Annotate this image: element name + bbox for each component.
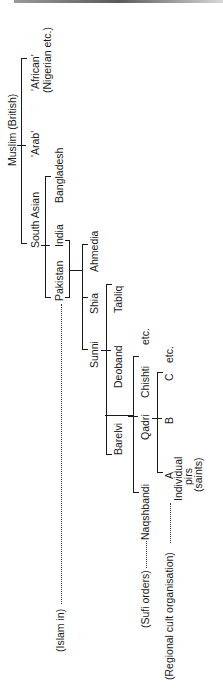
qadri-bracket-line <box>157 372 158 473</box>
node-b: B <box>164 417 175 424</box>
barelvi-bracket-top-cap <box>133 356 139 357</box>
node-deoband: Deoband <box>113 345 124 388</box>
sunni-bracket-line <box>106 284 107 455</box>
south-asian-bracket-line <box>45 176 46 298</box>
root-bracket-tick <box>17 145 26 146</box>
islam-in-dotted-leader <box>61 304 62 604</box>
node-qadri: Qadri <box>140 414 151 440</box>
india-pakistan-bracket-line <box>69 240 70 298</box>
pakistan-bracket-cap <box>65 297 70 298</box>
node-african-sub: (Nigerian etc.) <box>42 27 53 93</box>
south-asian-bracket-tick <box>41 245 50 246</box>
barelvi-bracket-line <box>133 356 134 493</box>
sufi-orders-dotted-leader <box>146 541 147 568</box>
node-barelvi: Barelvi <box>113 423 124 455</box>
node-shia: Shia <box>89 293 100 314</box>
node-african: 'African' <box>30 54 41 91</box>
node-sunni: Sunni <box>89 341 100 368</box>
node-c-etc: etc. <box>164 346 175 363</box>
south-asian-bracket-bottom-cap <box>45 297 51 298</box>
node-india: India <box>54 224 65 247</box>
node-chishti-etc: etc. <box>140 328 151 345</box>
sunni-bracket-top-cap <box>106 284 112 285</box>
muslim-hierarchy-tree-diagram: Muslim (British) 'African' (Nigerian etc… <box>0 0 223 692</box>
sunni-bracket-tick <box>101 350 111 351</box>
india-bracket-cap <box>65 240 70 241</box>
node-muslim-british: Muslim (British) <box>7 94 18 166</box>
node-tabliq: Tabliq <box>113 286 124 313</box>
node-c: C <box>164 373 175 381</box>
root-bracket-top-cap <box>21 58 27 59</box>
regional-cult-dotted-leader <box>170 503 171 543</box>
node-pakistan: Pakistan <box>54 261 65 301</box>
india-pakistan-connector <box>69 270 82 271</box>
node-naqshbandi: Naqshbandi <box>140 484 151 540</box>
barelvi-connector <box>105 415 133 416</box>
node-bangladesh: Bangladesh <box>54 148 65 203</box>
level-label-islam-in: (Islam in) <box>55 609 66 652</box>
node-arab: 'Arab' <box>30 131 41 157</box>
barelvi-bracket-tick <box>128 416 138 417</box>
root-bracket-line <box>21 58 22 244</box>
level-label-sufi-orders: (Sufi orders) <box>140 570 151 628</box>
south-asian-bracket-top-cap <box>45 176 51 177</box>
node-south-asian: South Asian <box>30 192 41 248</box>
level-label-regional-cult: (Regional cult organisation) <box>164 552 175 680</box>
root-bracket-bottom-cap <box>21 243 27 244</box>
node-chishti: Chishti <box>140 366 151 398</box>
node-saints: (saints) <box>193 458 204 492</box>
node-ahmedia: Ahmedia <box>89 231 100 272</box>
qadri-bracket-tick <box>152 418 162 419</box>
